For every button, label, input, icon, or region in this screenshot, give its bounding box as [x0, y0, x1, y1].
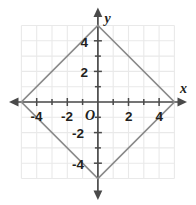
x-tick-label-neg2: -2 [61, 109, 73, 124]
y-tick-label-neg2: -2 [72, 126, 84, 141]
coordinate-plane-figure: -4 -2 2 4 4 2 -2 -4 O x y [0, 0, 196, 205]
x-tick-label-4: 4 [156, 109, 164, 124]
arrowhead-down-icon [94, 191, 103, 201]
arrowhead-right-icon [178, 98, 188, 107]
arrowhead-up-icon [94, 8, 103, 18]
arrowhead-left-icon [9, 98, 19, 107]
y-tick-label-neg4: -4 [72, 157, 84, 172]
x-axis-label: x [179, 81, 187, 96]
y-tick-label-2: 2 [81, 65, 89, 80]
x-tick-label-neg4: -4 [31, 109, 43, 124]
graph-canvas: -4 -2 2 4 4 2 -2 -4 O x y [0, 0, 196, 205]
origin-label: O [85, 108, 95, 123]
axis-lines [13, 12, 183, 197]
x-tick-label-2: 2 [125, 109, 133, 124]
y-tick-label-4: 4 [81, 35, 89, 50]
y-axis-label: y [103, 11, 112, 26]
